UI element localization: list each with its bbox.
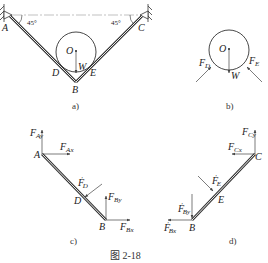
caption-a: a) bbox=[72, 101, 79, 111]
diagram-canvas: 45° 45° A C O W D E B a) O W FD FE b) bbox=[0, 0, 268, 263]
force-label-FD-prime: F′D bbox=[77, 175, 88, 190]
point-label-O-b: O bbox=[219, 43, 226, 54]
panel-c: FAy FAx A F′D D FBy B FBx c) bbox=[29, 127, 134, 246]
angle-arc-A bbox=[19, 15, 23, 24]
point-label-E: E bbox=[89, 67, 96, 78]
point-label-B-d: B bbox=[189, 222, 195, 233]
force-FE-arrow bbox=[247, 67, 262, 82]
force-label-FAy: FAy bbox=[29, 127, 44, 140]
force-label-FE-prime: F′E bbox=[211, 173, 222, 188]
point-label-B-c: B bbox=[99, 221, 105, 232]
figure-caption: 图 2-18 bbox=[110, 250, 141, 261]
panel-d: FCy FCx C F′E E F′By F′Bx B d) bbox=[163, 126, 262, 246]
point-label-A-c: A bbox=[33, 149, 41, 160]
force-label-FBx: FBx bbox=[119, 221, 134, 234]
rod-BC-d bbox=[192, 154, 255, 220]
figure-2-18: 45° 45° A C O W D E B a) O W FD FE b) bbox=[0, 0, 268, 263]
caption-c: c) bbox=[70, 236, 77, 246]
force-FE-prime-arrow bbox=[198, 176, 213, 191]
point-label-E-d: E bbox=[217, 194, 224, 205]
point-label-B: B bbox=[72, 84, 78, 95]
panel-b: O W FD FE b) bbox=[196, 30, 262, 111]
point-label-D: D bbox=[51, 67, 60, 78]
point-label-C: C bbox=[138, 22, 145, 33]
point-label-O: O bbox=[66, 45, 73, 56]
rod-BC bbox=[76, 16, 142, 82]
force-label-FBx-prime: F′Bx bbox=[163, 220, 177, 235]
angle-label-A: 45° bbox=[27, 19, 37, 27]
force-label-FE: FE bbox=[248, 55, 260, 68]
force-label-FBy: FBy bbox=[107, 191, 122, 204]
force-label-FCy: FCy bbox=[241, 126, 257, 139]
weight-label-b: W bbox=[231, 70, 241, 81]
left-wall-support bbox=[0, 4, 12, 22]
panel-a: 45° 45° A C O W D E B a) bbox=[0, 4, 152, 111]
force-label-FBy-prime: F′By bbox=[177, 201, 191, 216]
angle-label-C: 45° bbox=[111, 19, 121, 27]
force-label-FD: FD bbox=[198, 57, 210, 70]
point-label-C-d: C bbox=[255, 151, 262, 162]
right-wall-support bbox=[140, 4, 152, 22]
force-label-FAx: FAx bbox=[59, 141, 74, 154]
angle-arc-C bbox=[130, 15, 134, 24]
caption-b: b) bbox=[226, 101, 234, 111]
rod-AB-c bbox=[42, 154, 106, 220]
caption-d: d) bbox=[229, 236, 237, 246]
force-label-FCx: FCx bbox=[227, 141, 243, 154]
point-label-A: A bbox=[1, 22, 9, 33]
point-label-D-c: D bbox=[73, 195, 82, 206]
